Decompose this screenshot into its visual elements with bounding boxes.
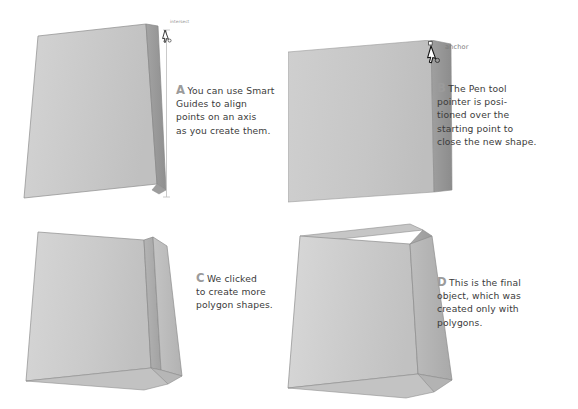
anchor-label: anchor — [445, 43, 469, 51]
shape-front-face — [24, 24, 157, 198]
caption-d-line4: polygons. — [437, 317, 483, 328]
shape-front-face — [26, 232, 151, 381]
caption-b-line4: starting point to — [437, 123, 513, 134]
shape-front-face — [288, 40, 434, 202]
caption-a: AYou can use Smart Guides to align point… — [176, 84, 296, 137]
caption-b-line1: The Pen tool — [448, 83, 506, 94]
caption-c-marker: C — [196, 271, 205, 285]
caption-c-line2: to create more — [196, 286, 266, 297]
caption-c-line3: polygon shapes. — [196, 299, 273, 310]
caption-a-line1: You can use Smart — [187, 85, 274, 96]
caption-d-line2: object, which was — [437, 290, 521, 301]
panel-c-more-polygons — [22, 218, 187, 398]
panel-d-final-object — [282, 218, 457, 400]
caption-a-line2: Guides to align — [176, 98, 247, 109]
caption-a-line3: points on an axis — [176, 111, 256, 122]
panel-b-artwork — [288, 40, 453, 210]
panel-c-artwork — [22, 218, 197, 403]
caption-a-marker: A — [176, 83, 185, 97]
caption-b-marker: B — [437, 81, 446, 95]
caption-c-line1: We clicked — [207, 273, 257, 284]
anchor-point — [429, 41, 433, 45]
caption-a-line4: as you create them. — [176, 125, 270, 136]
caption-d-line1: This is the final — [449, 277, 521, 288]
caption-d-marker: D — [437, 275, 447, 289]
caption-b: BThe Pen tool pointer is posi- tioned ov… — [437, 82, 563, 148]
illustration-figure: intersect AYou can use Smart Guides to a… — [0, 0, 578, 409]
shape-front-face — [288, 236, 418, 388]
caption-d-line3: created only with — [437, 303, 519, 314]
caption-b-line2: pointer is posi- — [437, 96, 507, 107]
smart-guide-intersect-label: intersect — [170, 19, 189, 24]
caption-b-line3: tioned over the — [437, 109, 509, 120]
panel-b-pen-tool-closeup: anchor — [288, 40, 448, 206]
caption-d: DThis is the final object, which was cre… — [437, 276, 563, 329]
caption-b-line5: close the new shape. — [437, 136, 537, 147]
panel-a-smart-guides: intersect — [18, 14, 178, 206]
